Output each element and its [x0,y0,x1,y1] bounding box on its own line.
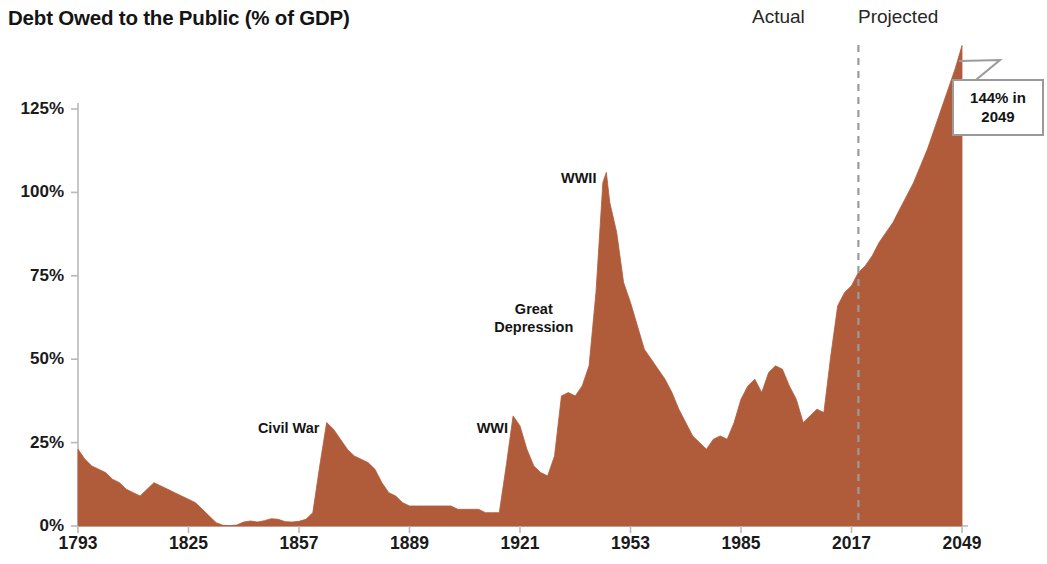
x-axis-tick-label: 1889 [390,533,429,554]
x-axis-tick-label: 1985 [722,533,761,554]
chart-annotation-label: Great Depression [494,301,573,336]
x-axis-tick-label: 1857 [280,533,319,554]
chart-annotation-label: Civil War [258,420,320,438]
callout-box: 144% in 2049 [952,79,1044,136]
callout-label: 144% in 2049 [970,89,1026,127]
x-axis-tick-label: 1953 [611,533,650,554]
x-axis-tick-label: 1793 [59,533,98,554]
chart-annotation-label: WWII [561,170,596,188]
x-axis-tick-label: 1921 [501,533,540,554]
x-axis-tick-label: 2049 [943,533,982,554]
x-axis-tick-label: 2017 [832,533,871,554]
x-axis-tick-label: 1825 [169,533,208,554]
chart-annotation-label: WWI [477,420,508,438]
chart-figure: Debt Owed to the Public (% of GDP) Actua… [0,0,1047,564]
x-axis: 179318251857188919211953198520172049 [0,0,1047,564]
